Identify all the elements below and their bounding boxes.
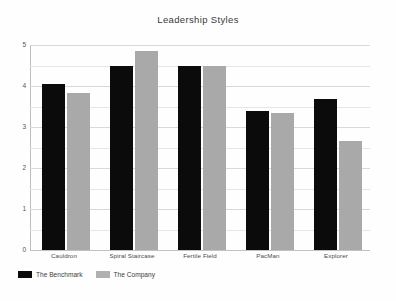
y-tick-label: 5 bbox=[10, 42, 26, 49]
bar-company bbox=[203, 66, 227, 250]
bar-company bbox=[339, 141, 363, 250]
legend-item-benchmark[interactable]: The Benchmark bbox=[18, 271, 83, 278]
x-label-pacman: PacMan bbox=[234, 252, 302, 259]
bar-group bbox=[178, 45, 227, 250]
x-label-spiral-staircase: Spiral Staircase bbox=[98, 252, 166, 259]
x-label-explorer: Explorer bbox=[302, 252, 370, 259]
bar-benchmark bbox=[314, 99, 338, 250]
bar-group bbox=[110, 45, 159, 250]
legend-swatch-icon bbox=[18, 271, 32, 278]
chart-title: Leadership Styles bbox=[0, 14, 396, 25]
bar-benchmark bbox=[42, 84, 66, 250]
y-tick-label: 0 bbox=[10, 247, 26, 254]
bar-benchmark bbox=[110, 66, 134, 251]
legend-label: The Company bbox=[114, 271, 155, 278]
bar-benchmark bbox=[246, 111, 270, 250]
legend-item-company[interactable]: The Company bbox=[96, 271, 155, 278]
bar-company bbox=[135, 51, 159, 250]
legend-label: The Benchmark bbox=[36, 271, 83, 278]
x-label-fertile-field: Fertile Field bbox=[166, 252, 234, 259]
plot-area bbox=[30, 45, 370, 250]
bar-group bbox=[314, 45, 363, 250]
y-tick-label: 2 bbox=[10, 165, 26, 172]
legend-swatch-icon bbox=[96, 271, 110, 278]
bar-benchmark bbox=[178, 66, 202, 251]
x-axis-category-labels: CauldronSpiral StaircaseFertile FieldPac… bbox=[30, 252, 370, 266]
x-label-cauldron: Cauldron bbox=[30, 252, 98, 259]
y-axis-tick-labels: 543210 bbox=[8, 45, 26, 250]
leadership-styles-chart: Leadership Styles 543210 CauldronSpiral … bbox=[0, 0, 396, 301]
axis-baseline bbox=[30, 250, 370, 251]
bar-group bbox=[42, 45, 91, 250]
y-tick-label: 1 bbox=[10, 206, 26, 213]
bar-company bbox=[67, 93, 91, 250]
bar-group bbox=[246, 45, 295, 250]
chart-legend: The BenchmarkThe Company bbox=[18, 271, 155, 278]
y-tick-label: 4 bbox=[10, 83, 26, 90]
bar-company bbox=[271, 113, 295, 250]
y-tick-label: 3 bbox=[10, 124, 26, 131]
